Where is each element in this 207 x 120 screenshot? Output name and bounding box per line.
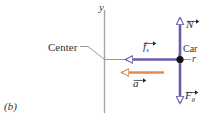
static-friction-subscript: s: [146, 46, 149, 53]
static-friction-symbol: f: [143, 40, 146, 52]
acceleration-vector-label: a: [133, 77, 139, 89]
radius-label: r: [192, 54, 196, 64]
acceleration-symbol: a: [133, 77, 139, 89]
static-friction-vector-label: f s: [143, 40, 149, 53]
center-leader-line: [80, 47, 104, 60]
panel-label: (b): [4, 101, 17, 112]
gravitational-force-vector-label: F g: [185, 89, 195, 102]
gravitational-force-symbol: F: [185, 89, 192, 101]
free-body-diagram-figure: y r Center Car N f s: [0, 0, 207, 120]
car-label: Car: [183, 44, 197, 54]
gravitational-force-subscript: g: [192, 95, 195, 102]
normal-force-symbol: N: [186, 18, 193, 30]
normal-force-vector-label: N: [186, 18, 193, 30]
center-label: Center: [48, 42, 77, 53]
car-position-dot: [176, 56, 183, 63]
diagram-canvas: [0, 0, 207, 120]
y-axis-label: y: [99, 2, 104, 13]
